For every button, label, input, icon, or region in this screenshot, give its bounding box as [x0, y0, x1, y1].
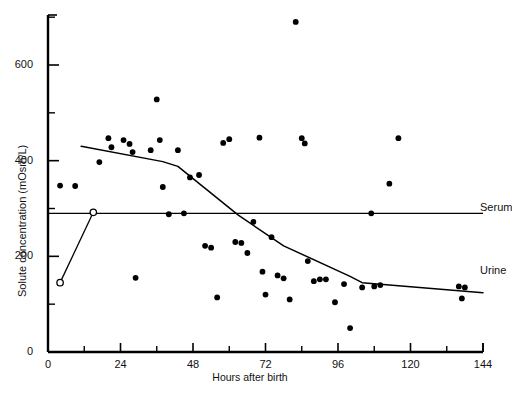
urine-series-label: Urine	[480, 264, 506, 276]
urine-trend-line	[81, 146, 483, 292]
x-tick-label: 120	[391, 358, 431, 370]
data-point-urine	[121, 137, 127, 143]
data-point-urine	[368, 210, 374, 216]
data-point-urine	[269, 234, 275, 240]
data-point-urine	[109, 144, 115, 150]
data-point-urine	[96, 159, 102, 165]
x-tick-label: 24	[101, 358, 141, 370]
data-point-urine	[238, 240, 244, 246]
data-point-urine	[359, 285, 365, 291]
data-point-urine	[371, 284, 377, 290]
data-point-urine	[72, 183, 78, 189]
data-point-urine	[302, 141, 308, 147]
data-point-urine	[275, 273, 281, 279]
data-point-urine	[257, 135, 263, 141]
data-point-urine	[287, 296, 293, 302]
serum-series-label: Serum	[480, 201, 512, 213]
data-point-urine	[214, 295, 220, 301]
x-tick-label: 72	[246, 358, 286, 370]
x-tick-label: 96	[318, 358, 358, 370]
data-point-urine	[377, 282, 383, 288]
x-tick-label: 0	[28, 358, 68, 370]
data-point-urine	[263, 292, 269, 298]
y-tick-label: 0	[0, 345, 33, 357]
data-point-urine	[347, 325, 353, 331]
x-tick-label: 144	[463, 358, 503, 370]
data-point-urine	[202, 243, 208, 249]
data-point-urine	[208, 245, 214, 251]
data-point-urine	[323, 276, 329, 282]
data-point-urine	[317, 276, 323, 282]
data-point-urine	[396, 135, 402, 141]
data-point-urine	[281, 275, 287, 281]
data-point-urine	[166, 211, 172, 217]
data-point-urine	[130, 149, 136, 155]
data-point-urine	[226, 136, 232, 142]
data-point-urine	[157, 137, 163, 143]
data-point-urine	[175, 147, 181, 153]
data-point-urine	[127, 141, 133, 147]
data-point-urine	[456, 284, 462, 290]
data-point-urine	[220, 140, 226, 146]
data-point-urine	[181, 210, 187, 216]
data-point-urine	[106, 135, 112, 141]
data-point-urine	[187, 175, 193, 181]
data-point-urine	[133, 275, 139, 281]
data-point-urine	[311, 278, 317, 284]
x-tick-label: 48	[173, 358, 213, 370]
data-point-urine	[160, 184, 166, 190]
y-tick-label: 600	[0, 58, 33, 70]
data-point-urine	[148, 147, 154, 153]
data-point-urine	[332, 299, 338, 305]
data-point-urine	[251, 219, 257, 225]
data-point-urine	[299, 135, 305, 141]
data-point-urine	[154, 97, 160, 103]
data-point-urine	[244, 250, 250, 256]
data-point-urine	[305, 258, 311, 264]
data-point-urine	[293, 19, 299, 25]
data-point-urine	[260, 269, 266, 275]
data-point-urine	[57, 183, 63, 189]
data-point-urine	[459, 296, 465, 302]
data-point-urine	[232, 239, 238, 245]
data-point-urine	[462, 285, 468, 291]
data-point-urine	[196, 172, 202, 178]
data-point-urine	[341, 281, 347, 287]
x-axis-title: Hours after birth	[0, 371, 500, 383]
data-point-open-circle	[90, 209, 96, 215]
data-point-urine	[386, 181, 392, 187]
y-axis-title: Solute concentration (mOsm/L)	[16, 145, 28, 297]
data-point-open-circle	[57, 279, 63, 285]
open-circle-connector	[60, 212, 93, 282]
